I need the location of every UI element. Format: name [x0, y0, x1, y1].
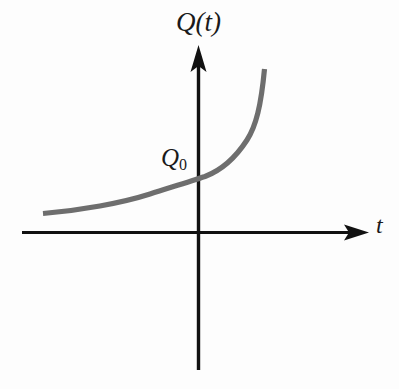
exponential-curve: [43, 69, 265, 214]
x-axis-label: t: [376, 213, 383, 237]
intercept-label: Q0: [161, 145, 187, 173]
y-axis-label: Q(t): [176, 9, 221, 36]
intercept-subscript: 0: [179, 156, 187, 173]
intercept-symbol: Q: [161, 144, 179, 171]
plot-canvas: [0, 0, 399, 389]
exponential-growth-figure: Q(t) Q0 t: [0, 0, 399, 389]
